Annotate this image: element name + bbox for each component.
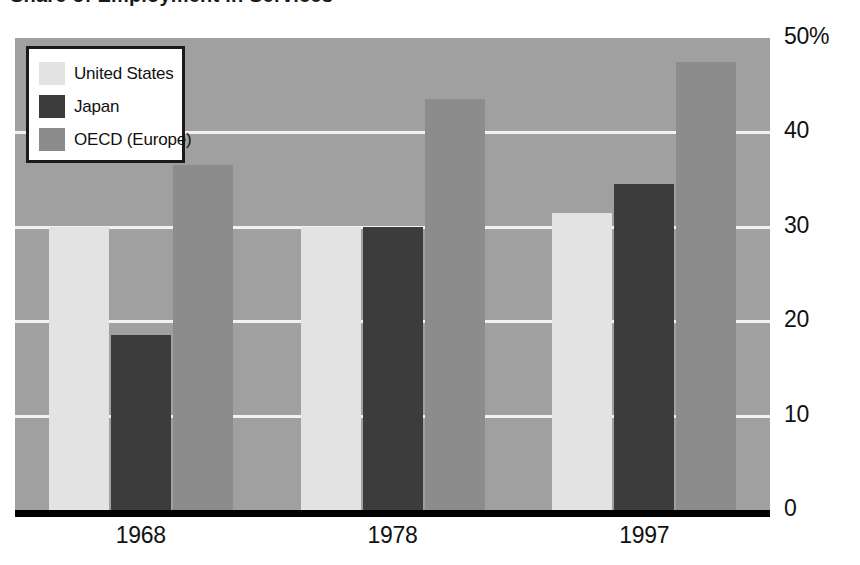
page-title: Share of Employment in Services [10,0,333,7]
y-tick-mark-30 [744,226,770,229]
bar-oecd-1978 [425,99,485,510]
bar-jp-1968 [111,335,171,510]
y-tick-label-50: 50% [784,23,829,50]
bar-us-1978 [301,227,361,510]
legend-swatch-icon-oecd-europe [39,128,65,151]
x-axis-baseline [15,510,770,517]
legend-item-united-states: United States [39,57,174,90]
bar-us-1968 [49,227,109,510]
bar-jp-1978 [363,227,423,510]
chart-page: Share of Employment in Services 50%40302… [0,0,860,565]
legend-item-japan: Japan [39,90,174,123]
y-tick-label-40: 40 [784,117,809,144]
chart-legend: United States Japan OECD (Europe) [26,46,185,163]
x-tick-label-1968: 1968 [15,522,267,549]
chart-title-strip: Share of Employment in Services [0,0,860,10]
y-tick-label-0: 0 [784,495,797,522]
legend-label-united-states: United States [74,64,173,84]
y-tick-mark-10 [744,415,770,418]
x-tick-label-1978: 1978 [267,522,519,549]
bar-oecd-1997 [676,62,736,510]
y-tick-label-20: 20 [784,306,809,333]
bar-jp-1997 [614,184,674,510]
y-tick-label-30: 30 [784,212,809,239]
legend-swatch-icon-japan [39,95,65,118]
legend-item-oecd-europe: OECD (Europe) [39,123,174,156]
y-tick-mark-40 [744,131,770,134]
legend-label-japan: Japan [74,97,119,117]
legend-label-oecd-europe: OECD (Europe) [74,130,191,150]
legend-swatch-icon-united-states [39,62,65,85]
y-tick-label-10: 10 [784,401,809,428]
y-tick-mark-20 [744,320,770,323]
x-tick-label-1997: 1997 [518,522,770,549]
bar-us-1997 [552,213,612,510]
bar-oecd-1968 [173,165,233,510]
